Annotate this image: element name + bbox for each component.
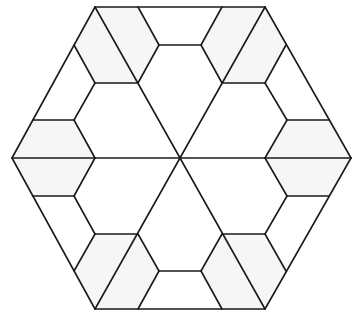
tiling-edge — [265, 83, 287, 120]
hexagon-tiling-diagram — [0, 0, 356, 330]
tiling-edge — [74, 83, 95, 120]
tiling-edge — [74, 196, 95, 234]
tiling-edge — [265, 196, 287, 234]
tiling-edges — [12, 7, 351, 309]
